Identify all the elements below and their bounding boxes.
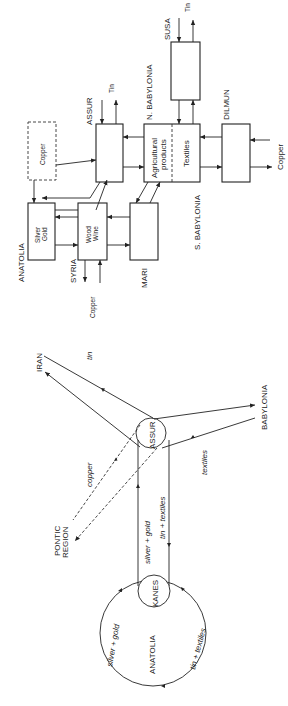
- network-diagram: IRAN tin ASSUR BABYLONIA textiles PONTIC…: [35, 351, 269, 688]
- mari-box: [130, 203, 158, 260]
- wine-label: Wine: [92, 226, 99, 241]
- babylonia-label: BABYLONIA: [260, 384, 269, 430]
- silver-gold-flow-label: silver + gold: [143, 521, 152, 564]
- assur-label: ASSUR: [85, 97, 94, 125]
- arrow-icon: [150, 182, 160, 203]
- kanes-node-label: KANES: [151, 580, 160, 607]
- wood-label: Wood: [85, 226, 92, 243]
- anatolia-region-label: ANATOLIA: [148, 635, 157, 674]
- susa-label: SUSA: [163, 18, 172, 40]
- dilmun-copper-label: Copper: [276, 143, 285, 170]
- n-babylonia-label: N. BABYLONIA: [145, 64, 154, 120]
- mari-label: MARI: [140, 268, 149, 288]
- arrow-icon: [118, 588, 122, 592]
- assur-to-babylonia: [154, 405, 255, 419]
- anatolia-silver-gold-label: silver + gold: [105, 623, 121, 667]
- arrow-icon: [56, 160, 96, 165]
- dilmun-box: [222, 124, 250, 182]
- susa-tin-label: Tin: [184, 3, 191, 12]
- s-babylonia-label: S. BABYLONIA: [193, 194, 202, 250]
- region-label: REGION: [61, 526, 70, 558]
- syria-copper-label: Copper: [89, 296, 97, 318]
- babylonia-to-assur: [162, 418, 255, 448]
- anatolia-label: ANATOLIA: [17, 243, 26, 282]
- tin-route-in: [44, 356, 153, 418]
- arrow-icon: [136, 484, 140, 488]
- textiles-flow-label: textiles: [200, 450, 209, 475]
- products-label: products: [159, 139, 168, 170]
- arrow-icon: [167, 543, 171, 547]
- tin-label: tin: [85, 351, 94, 360]
- iran-label: IRAN: [35, 353, 44, 372]
- syria-label: SYRIA: [69, 258, 78, 283]
- tin-textiles-flow-label: tin + textiles: [158, 497, 167, 539]
- trade-diagrams: SUSA Tin ASSUR Tin Agricultural products…: [0, 0, 288, 706]
- assur-box: [96, 124, 123, 182]
- copper-source-label: Copper: [39, 143, 47, 165]
- assur-node-label: ASSUR: [148, 421, 157, 449]
- anatolia-tin-textiles-label: tin + textiles: [188, 627, 208, 670]
- copper-flow-label: copper: [85, 462, 94, 487]
- dilmun-label: DILMUN: [222, 89, 231, 120]
- gold-label: Gold: [41, 227, 48, 241]
- susa-box: [171, 42, 200, 100]
- assur-tin-label: Tin: [108, 84, 115, 93]
- textiles-label: Textiles: [182, 140, 191, 167]
- arrow-icon: [191, 435, 195, 438]
- agricultural-label: Agricultural: [150, 138, 159, 178]
- arrow-icon: [42, 182, 100, 198]
- block-diagram: SUSA Tin ASSUR Tin Agricultural products…: [17, 3, 285, 318]
- silver-label: Silver: [34, 226, 41, 243]
- arrow-icon: [136, 182, 148, 203]
